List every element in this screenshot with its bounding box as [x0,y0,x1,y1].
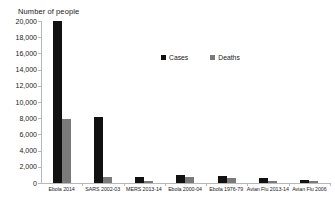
y-axis-tick-mark [38,53,41,54]
legend-item-cases: Cases [161,54,188,61]
x-axis-tick-labels: Ebola 2014SARS 2002-03MERS 2013-14Ebola … [41,186,330,192]
legend-swatch-icon-cases [161,55,166,60]
bar-cases [94,117,103,183]
y-axis-tick-mark [38,21,41,22]
y-axis-tick-label: 4,000 [19,147,37,154]
bar-deaths [227,178,236,183]
x-axis-tick-mark [124,183,125,186]
x-axis-tick-label: SARS 2002-03 [82,186,123,192]
bar-deaths [103,177,112,183]
legend-label-deaths: Deaths [218,54,240,61]
y-axis-tick-label: 18,000 [16,34,37,41]
bar-group [165,21,206,183]
y-axis-tick-mark [38,134,41,135]
bar-deaths [268,181,277,183]
x-axis-tick-label: Ebola 1976-79 [206,186,247,192]
x-axis-tick-label: Ebola 2000-04 [164,186,205,192]
bar-group [124,21,165,183]
bar-cases [259,178,268,183]
bar-group [247,21,288,183]
y-axis-tick-label: 2,000 [19,163,37,170]
bar-group [41,21,82,183]
y-axis-tick-mark [38,167,41,168]
x-axis-tick-mark [247,183,248,186]
y-axis-tick-mark [38,183,41,184]
y-axis-tick-label: 20,000 [16,18,37,25]
y-axis-tick-label: 14,000 [16,66,37,73]
bar-deaths [185,177,194,183]
y-axis-tick-label: 16,000 [16,50,37,57]
y-axis-tick-mark [38,118,41,119]
bar-deaths [309,181,318,183]
x-axis-tick-label: Avian Flu 2006 [289,186,330,192]
bar-deaths [144,181,153,183]
legend-item-deaths: Deaths [210,54,240,61]
x-axis-tick-label: Ebola 2014 [41,186,82,192]
y-axis-tick-label: 12,000 [16,82,37,89]
bar-deaths [62,119,71,183]
y-axis-tick-label: 10,000 [16,99,37,106]
y-axis-tick-mark [38,70,41,71]
y-axis-tick-label: 0 [33,180,37,187]
x-axis-line [41,183,330,184]
legend-swatch-icon-deaths [210,55,215,60]
x-axis-tick-label: Avian Flu 2013-14 [247,186,289,192]
x-axis-tick-mark [82,183,83,186]
y-axis-tick-mark [38,102,41,103]
bar-cases [218,176,227,183]
bar-group [82,21,123,183]
bar-group [289,21,330,183]
bar-group [206,21,247,183]
y-axis-tick-mark [38,37,41,38]
y-axis-tick-labels: 02,0004,0006,0008,00010,00012,00014,0001… [0,0,37,214]
x-axis-tick-mark [289,183,290,186]
bar-cases [300,180,309,183]
bar-cases [53,21,62,183]
x-axis-tick-mark [206,183,207,186]
y-axis-tick-mark [38,151,41,152]
y-axis-tick-label: 8,000 [19,115,37,122]
y-axis-tick-mark [38,86,41,87]
y-axis-tick-label: 6,000 [19,131,37,138]
bar-cases [176,175,185,183]
chart-legend: Cases Deaths [161,54,240,61]
bar-cases [135,177,144,183]
x-axis-tick-mark [330,183,331,186]
bar-chart: Number of people 02,0004,0006,0008,00010… [0,0,335,214]
x-axis-tick-mark [165,183,166,186]
x-axis-tick-label: MERS 2013-14 [123,186,164,192]
bar-groups [41,21,330,183]
legend-label-cases: Cases [169,54,188,61]
